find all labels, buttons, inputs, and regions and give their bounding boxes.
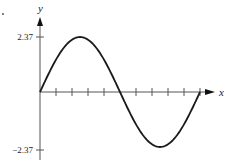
y-axis-arrow-icon: [37, 17, 43, 26]
stray-dot: [2, 13, 4, 15]
x-axis-arrow-icon: [205, 89, 215, 95]
sine-chart: y x 2.37 −2.37: [0, 0, 229, 165]
x-axis-label: x: [218, 86, 224, 98]
ytick-label-top: 2.37: [17, 32, 33, 42]
y-axis-label: y: [37, 2, 43, 14]
ytick-label-bottom: −2.37: [12, 145, 33, 155]
